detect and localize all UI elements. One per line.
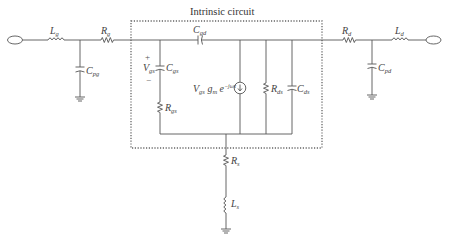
label-current-source: Vgs gm e−jωτ bbox=[193, 83, 236, 96]
vgs-minus-sign: − bbox=[146, 76, 151, 85]
label-cpg: Cpg bbox=[86, 66, 99, 78]
label-cgd: Cgd bbox=[193, 25, 206, 37]
label-rgs: Rgs bbox=[165, 103, 177, 115]
label-cpd: Cpd bbox=[378, 63, 391, 75]
cpd-ground-icon bbox=[367, 95, 377, 99]
source-ground-icon bbox=[221, 229, 231, 233]
label-cgs: Cgs bbox=[166, 63, 178, 75]
circuit-schematic bbox=[0, 0, 454, 251]
label-ld: Ld bbox=[395, 26, 404, 38]
vgs-plus-sign: + bbox=[145, 53, 150, 62]
rds-resistor-symbol bbox=[264, 83, 269, 94]
intrinsic-circuit-title: Intrinsic circuit bbox=[190, 7, 254, 18]
label-rd: Rd bbox=[342, 26, 351, 38]
label-rg: Rg bbox=[101, 26, 110, 38]
label-cds: Cds bbox=[297, 84, 309, 96]
cpg-ground-icon bbox=[75, 97, 85, 101]
rs-resistor-symbol bbox=[224, 155, 229, 166]
hemt-small-signal-equivalent-circuit: Intrinsic circuit Lg Rg Cpg Cgd + Vgs − … bbox=[0, 0, 454, 251]
lg-inductor-symbol bbox=[48, 38, 64, 40]
drain-port-terminal bbox=[426, 36, 441, 44]
ld-inductor-symbol bbox=[392, 38, 408, 40]
label-vgs: Vgs bbox=[143, 63, 155, 75]
label-rds: Rds bbox=[271, 84, 283, 96]
ls-inductor-symbol bbox=[224, 197, 226, 213]
label-ls: Ls bbox=[231, 199, 239, 211]
label-lg: Lg bbox=[50, 26, 59, 38]
label-rs: Rs bbox=[231, 156, 240, 168]
rd-resistor-symbol bbox=[343, 38, 356, 43]
rgs-resistor-symbol bbox=[158, 102, 163, 113]
rg-resistor-symbol bbox=[101, 38, 114, 43]
gate-port-terminal bbox=[8, 36, 23, 44]
